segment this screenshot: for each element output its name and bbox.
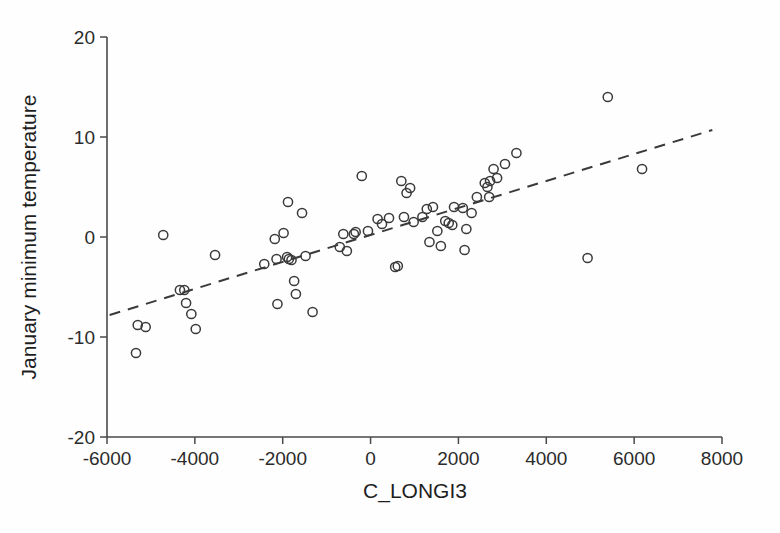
x-tick-label: 8000 <box>701 448 743 469</box>
data-point <box>436 241 445 250</box>
data-point <box>357 171 366 180</box>
data-point <box>422 204 431 213</box>
x-axis-ticks: -6000-4000-200002000400060008000 <box>83 437 743 469</box>
data-point <box>500 159 509 168</box>
data-point <box>210 250 219 259</box>
y-tick-label: 0 <box>84 227 95 248</box>
data-point <box>181 298 190 307</box>
x-tick-label: 0 <box>365 448 376 469</box>
data-point <box>131 348 140 357</box>
data-point <box>339 229 348 238</box>
x-tick-label: -6000 <box>83 448 132 469</box>
y-tick-label: 10 <box>74 127 95 148</box>
data-point <box>637 164 646 173</box>
x-tick-label: 6000 <box>613 448 655 469</box>
y-tick-label: 20 <box>74 27 95 48</box>
x-tick-label: 2000 <box>437 448 479 469</box>
y-tick-label: -20 <box>68 427 95 448</box>
x-axis-label: C_LONGI3 <box>363 479 467 503</box>
y-tick-label: -10 <box>68 327 95 348</box>
data-point <box>191 324 200 333</box>
x-tick-label: -4000 <box>171 448 220 469</box>
data-point <box>462 224 471 233</box>
data-point <box>460 245 469 254</box>
data-point <box>428 202 437 211</box>
data-point <box>297 208 306 217</box>
data-point <box>351 227 360 236</box>
data-point <box>425 237 434 246</box>
x-tick-label: 4000 <box>525 448 567 469</box>
data-point <box>603 92 612 101</box>
data-point <box>187 309 196 318</box>
data-point <box>273 299 282 308</box>
trendline-path <box>110 130 713 315</box>
data-point <box>270 234 279 243</box>
trendline <box>110 130 713 315</box>
data-point <box>467 208 476 217</box>
data-point <box>272 254 281 263</box>
data-point <box>384 213 393 222</box>
plot-canvas: -6000-4000-200002000400060008000 20100-1… <box>0 0 780 533</box>
data-point <box>283 197 292 206</box>
axis-lines <box>107 37 722 437</box>
y-axis-ticks: 20100-10-20 <box>68 27 107 448</box>
data-point <box>449 202 458 211</box>
data-point <box>433 226 442 235</box>
data-point <box>489 164 498 173</box>
y-axis-label: January minimum temperature <box>17 95 40 380</box>
scatter-plot-figure: -6000-4000-200002000400060008000 20100-1… <box>0 0 780 533</box>
data-point <box>301 251 310 260</box>
x-tick-label: -2000 <box>258 448 307 469</box>
data-point <box>159 230 168 239</box>
axes-group <box>107 37 722 437</box>
data-point <box>279 228 288 237</box>
data-point <box>290 276 299 285</box>
data-point <box>291 289 300 298</box>
data-point <box>308 307 317 316</box>
data-point <box>397 176 406 185</box>
data-point <box>512 148 521 157</box>
data-point <box>342 246 351 255</box>
data-point <box>472 192 481 201</box>
data-points-group <box>131 92 646 357</box>
data-point <box>363 226 372 235</box>
data-point <box>583 253 592 262</box>
data-point <box>399 212 408 221</box>
